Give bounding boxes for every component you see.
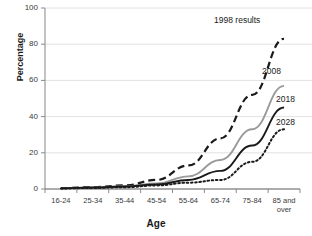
series-label-2028: 2028 <box>276 117 295 127</box>
axis-lines <box>45 8 300 189</box>
x-tick-marks <box>45 189 300 193</box>
x-tick-label: 85 andover <box>256 196 312 214</box>
gridlines <box>45 8 312 153</box>
series-label-2018: 2018 <box>276 94 295 104</box>
y-axis-label: Percentage <box>15 13 25 101</box>
series-label-1998-results: 1998 results <box>214 15 260 25</box>
y-tick-label: 60 <box>8 75 38 84</box>
y-tick-label: 40 <box>8 112 38 121</box>
x-axis-label: Age <box>0 218 312 229</box>
series-line <box>61 39 284 188</box>
y-tick-label: 0 <box>8 184 38 193</box>
series-lines <box>61 39 284 189</box>
y-tick-label: 80 <box>8 39 38 48</box>
y-tick-label: 20 <box>8 148 38 157</box>
chart-container: Percentage Age 020406080100 16-2425-3435… <box>0 0 312 236</box>
series-label-2008: 2008 <box>262 66 281 76</box>
y-tick-label: 100 <box>8 3 38 12</box>
series-line <box>61 108 284 189</box>
